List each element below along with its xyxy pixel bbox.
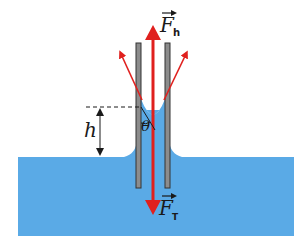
water-basin — [18, 110, 294, 236]
height-dimension — [96, 108, 104, 156]
svg-text:h: h — [173, 27, 180, 38]
force-up-arrow — [145, 25, 161, 110]
capillary-wall-right — [165, 43, 170, 188]
angle-label: θ — [141, 117, 150, 135]
force-up-label: F h — [159, 13, 180, 38]
capillary-wall-left — [136, 43, 141, 188]
svg-text:T: T — [172, 212, 179, 222]
capillary-diagram: h θ F h F T — [0, 0, 306, 248]
height-label: h — [84, 118, 97, 142]
